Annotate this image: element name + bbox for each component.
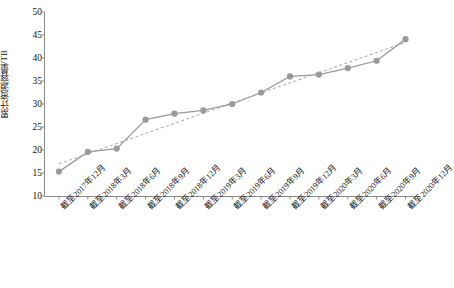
data-point-marker <box>374 58 380 64</box>
data-point-marker <box>229 101 235 107</box>
data-point-marker <box>345 65 351 71</box>
data-point-marker <box>316 71 322 77</box>
data-point-marker <box>402 36 408 42</box>
data-point-marker <box>287 73 293 79</box>
data-point-marker <box>171 111 177 117</box>
data-point-marker <box>85 149 91 155</box>
data-point-marker <box>200 107 206 113</box>
data-point-marker <box>258 89 264 95</box>
data-point-markers <box>56 36 409 175</box>
data-point-marker <box>114 146 120 152</box>
data-point-marker <box>142 117 148 123</box>
data-point-marker <box>56 169 62 175</box>
